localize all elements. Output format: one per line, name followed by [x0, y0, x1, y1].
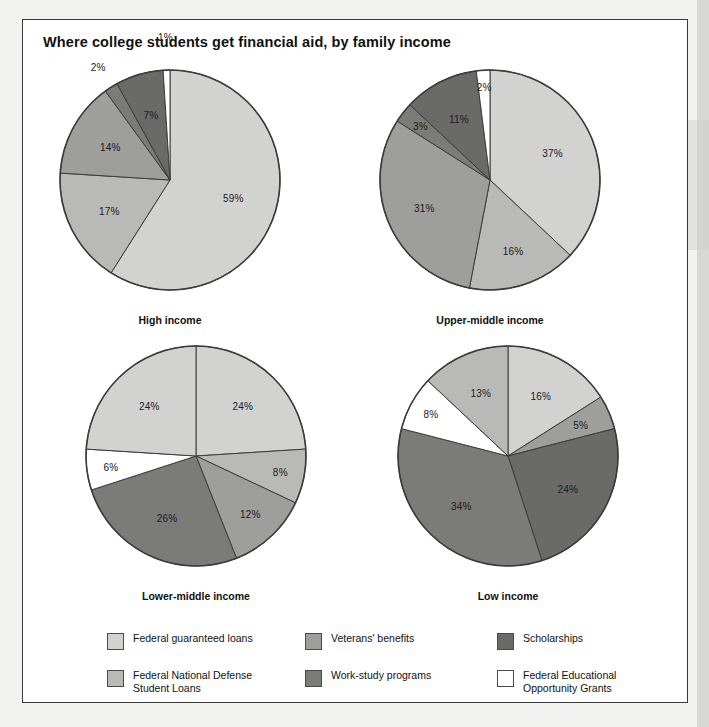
pie-chart-upper-middle-income: 37%16%31%3%11%2%	[365, 62, 615, 300]
page-edge-artifact-corner	[688, 120, 709, 250]
pie-lower-middle-income-svg	[71, 338, 321, 576]
slice-label: 26%	[157, 512, 178, 523]
legend-label-work-study-programs: Work-study programs	[331, 669, 431, 682]
pie-chart-lower-middle-income: 24%8%12%26%6%24%	[71, 338, 321, 576]
slice-label: 59%	[223, 193, 244, 204]
pie-panel-low-income: 16%5%24%34%8%13% Low income	[383, 338, 633, 606]
slice-label: 5%	[573, 419, 588, 430]
pie-panel-high-income: 59%17%14%2%7%1% High income	[45, 62, 295, 330]
slice-label: 8%	[273, 467, 288, 478]
slice-label: 24%	[232, 401, 253, 412]
pie-caption-lower-middle-income: Lower-middle income	[71, 590, 321, 602]
legend-label-federal-national-defense-student-loans: Federal National DefenseStudent Loans	[133, 669, 252, 694]
pie-caption-low-income: Low income	[383, 590, 633, 602]
legend-swatch-federal-guaranteed-loans	[107, 633, 124, 650]
chart-frame: Where college students get financial aid…	[22, 19, 688, 703]
slice-label: 24%	[139, 401, 160, 412]
legend-item-federal-educational-opportunity-grants[interactable]: Federal EducationalOpportunity Grants	[497, 669, 682, 695]
slice-label: 6%	[103, 461, 118, 472]
legend-item-federal-guaranteed-loans[interactable]: Federal guaranteed loans	[107, 632, 292, 658]
legend-swatch-work-study-programs	[305, 670, 322, 687]
legend-swatch-federal-educational-opportunity-grants	[497, 670, 514, 687]
legend-label-scholarships: Scholarships	[523, 632, 583, 645]
pie-low-income-svg	[383, 338, 633, 576]
slice-label: 3%	[413, 121, 428, 132]
slice-label: 2%	[91, 61, 106, 72]
slice-label: 13%	[471, 388, 492, 399]
page-edge-artifact-right	[697, 0, 709, 727]
page-title: Where college students get financial aid…	[43, 34, 451, 50]
pie-upper-middle-income-svg	[365, 62, 615, 300]
legend-column-3: ScholarshipsFederal EducationalOpportuni…	[497, 632, 682, 706]
slice-label: 12%	[240, 508, 261, 519]
legend-label-veterans-benefits: Veterans' benefits	[331, 632, 414, 645]
slice-label: 2%	[477, 81, 492, 92]
legend-label-line2: Opportunity Grants	[523, 682, 616, 695]
legend-label-federal-educational-opportunity-grants: Federal EducationalOpportunity Grants	[523, 669, 616, 694]
legend-column-1: Federal guaranteed loansFederal National…	[107, 632, 292, 706]
legend-column-2: Veterans' benefitsWork-study programs	[305, 632, 490, 706]
pie-chart-high-income: 59%17%14%2%7%1%	[45, 62, 295, 300]
legend: Federal guaranteed loansFederal National…	[107, 632, 637, 696]
slice-label: 24%	[557, 483, 578, 494]
slice-label: 16%	[503, 246, 524, 257]
pie-panel-lower-middle-income: 24%8%12%26%6%24% Lower-middle income	[71, 338, 321, 606]
pie-high-income-svg	[45, 62, 295, 300]
pie-panel-upper-middle-income: 37%16%31%3%11%2% Upper-middle income	[365, 62, 615, 330]
slice-label: 1%	[158, 32, 173, 43]
legend-swatch-scholarships	[497, 633, 514, 650]
slice-label: 11%	[449, 114, 469, 125]
legend-label-line2: Student Loans	[133, 682, 252, 695]
slice-label: 14%	[100, 142, 121, 153]
slice-label: 7%	[144, 109, 159, 120]
legend-item-scholarships[interactable]: Scholarships	[497, 632, 682, 658]
slice-label: 37%	[542, 147, 563, 158]
legend-label-federal-guaranteed-loans: Federal guaranteed loans	[133, 632, 253, 645]
slice-label: 17%	[99, 206, 120, 217]
pie-caption-high-income: High income	[45, 314, 295, 326]
legend-swatch-federal-national-defense-student-loans	[107, 670, 124, 687]
pie-chart-low-income: 16%5%24%34%8%13%	[383, 338, 633, 576]
slice-label: 31%	[414, 203, 435, 214]
pie-caption-upper-middle-income: Upper-middle income	[365, 314, 615, 326]
legend-swatch-veterans-benefits	[305, 633, 322, 650]
slice-label: 34%	[451, 500, 472, 511]
slice-label: 8%	[423, 408, 438, 419]
legend-item-work-study-programs[interactable]: Work-study programs	[305, 669, 490, 695]
legend-item-federal-national-defense-student-loans[interactable]: Federal National DefenseStudent Loans	[107, 669, 292, 695]
legend-item-veterans-benefits[interactable]: Veterans' benefits	[305, 632, 490, 658]
slice-label: 16%	[531, 391, 552, 402]
